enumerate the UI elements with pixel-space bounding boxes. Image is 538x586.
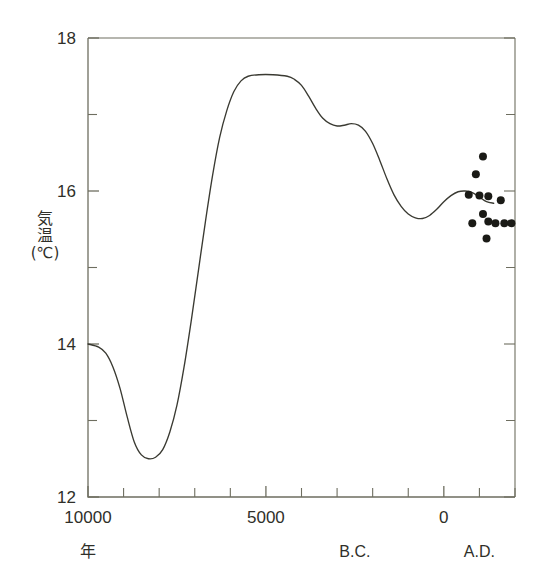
temperature-line — [88, 75, 494, 459]
observation-dot — [483, 234, 491, 242]
x-axis-era-label: 年 — [80, 543, 96, 560]
y-axis-tick-label: 12 — [57, 488, 76, 507]
axes-frame — [88, 38, 515, 497]
observation-dot — [472, 170, 480, 178]
chart-plot-area: 18161412 1000050000 年B.C.A.D. — [0, 0, 538, 586]
y-axis-tick-label: 18 — [57, 29, 76, 48]
observation-dot — [507, 219, 515, 227]
observation-points — [465, 153, 516, 243]
observation-dot — [491, 219, 499, 227]
y-axis-tick-label: 14 — [57, 335, 76, 354]
observation-dot — [479, 210, 487, 218]
observation-dot — [468, 219, 476, 227]
y-axis-ticks — [88, 38, 515, 497]
observation-dot — [497, 196, 505, 204]
temperature-chart: 18161412 1000050000 年B.C.A.D. 気 温 (℃) — [0, 0, 538, 586]
y-axis-tick-labels: 18161412 — [57, 29, 76, 507]
observation-dot — [465, 191, 473, 199]
observation-dot — [479, 153, 487, 161]
x-axis-tick-labels: 1000050000 — [64, 508, 448, 527]
x-axis-era-label: B.C. — [339, 543, 370, 560]
x-axis-era-labels: 年B.C.A.D. — [80, 543, 495, 560]
temperature-curve — [88, 75, 494, 459]
x-axis-ticks — [88, 486, 515, 497]
y-axis-title-unit: (℃) — [22, 245, 68, 261]
observation-dot — [484, 192, 492, 200]
observation-dot — [484, 218, 492, 226]
axis-left-bottom — [88, 38, 515, 497]
y-axis-title-char-2: 温 — [22, 227, 68, 244]
x-axis-tick-label: 10000 — [64, 508, 111, 527]
x-axis-era-label: A.D. — [464, 543, 495, 560]
observation-dot — [475, 192, 483, 200]
x-axis-tick-label: 0 — [439, 508, 448, 527]
y-axis-tick-label: 16 — [57, 182, 76, 201]
y-axis-title-char-1: 気 — [22, 210, 68, 227]
x-axis-tick-label: 5000 — [247, 508, 285, 527]
y-axis-title: 気 温 (℃) — [22, 210, 68, 261]
observation-dot — [500, 219, 508, 227]
